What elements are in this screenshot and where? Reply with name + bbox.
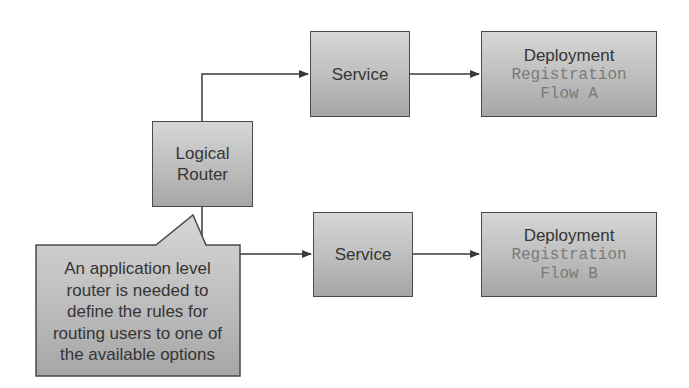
deployment-b-title: Deployment — [524, 225, 615, 246]
deployment-b-name-line2: Flow B — [540, 265, 598, 284]
diagram-canvas: Logical Router Service Service Deploymen… — [0, 0, 689, 388]
service-b-box: Service — [313, 212, 413, 297]
deployment-b-name-line1: Registration — [511, 246, 626, 265]
deployment-a-title: Deployment — [524, 45, 615, 66]
callout-line: the available options — [35, 344, 240, 366]
router-label-line2: Router — [177, 164, 228, 185]
callout-line: An application level — [35, 258, 240, 280]
callout-text: An application level router is needed to… — [35, 258, 240, 366]
logical-router-box: Logical Router — [152, 121, 253, 207]
service-a-label: Service — [332, 64, 389, 85]
deployment-a-name-line2: Flow A — [540, 85, 598, 104]
callout-line: routing users to one of — [35, 323, 240, 345]
callout-line: define the rules for — [35, 301, 240, 323]
deployment-a-name-line1: Registration — [511, 66, 626, 85]
service-b-label: Service — [335, 244, 392, 265]
router-label-line1: Logical — [176, 143, 230, 164]
arrow-router-to-service-a — [202, 74, 308, 121]
deployment-a-box: Deployment Registration Flow A — [481, 31, 657, 117]
service-a-box: Service — [310, 31, 410, 117]
deployment-b-box: Deployment Registration Flow B — [481, 212, 657, 297]
callout-line: router is needed to — [35, 280, 240, 302]
